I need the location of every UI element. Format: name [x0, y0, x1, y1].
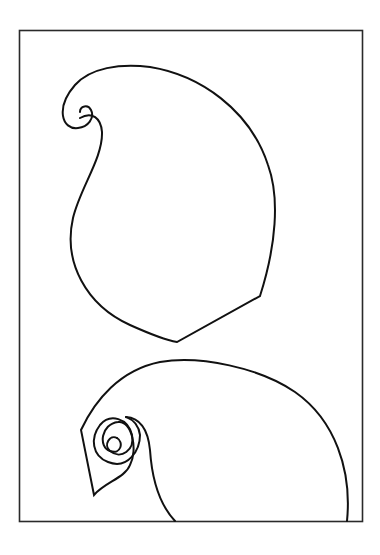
paisley-large-outline — [63, 66, 275, 342]
paisley-partial-swirl — [94, 417, 140, 464]
paisley-template — [0, 0, 380, 555]
page-frame — [20, 31, 363, 522]
paisley-partial-outline — [81, 360, 348, 521]
paisley-partial-tail — [126, 417, 175, 521]
